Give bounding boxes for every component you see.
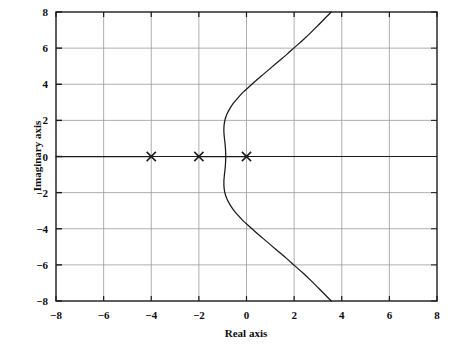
- y-tick-label: 8: [20, 6, 48, 18]
- y-tick-label: −6: [20, 259, 48, 271]
- x-tick-label: −8: [50, 309, 62, 321]
- x-axis-label: Real axis: [225, 327, 267, 339]
- x-tick-label: 4: [339, 309, 345, 321]
- x-tick-label: −2: [193, 309, 205, 321]
- root-locus-plot: [0, 0, 453, 347]
- y-tick-label: 4: [20, 78, 48, 90]
- x-tick-label: 6: [387, 309, 393, 321]
- y-tick-label: −4: [20, 223, 48, 235]
- root-locus-figure: −8−6−4−202468 86420−2−4−6−8 Real axis Im…: [0, 0, 453, 347]
- y-tick-label: −8: [20, 295, 48, 307]
- x-tick-label: −6: [98, 309, 110, 321]
- x-tick-label: −4: [145, 309, 157, 321]
- x-tick-label: 8: [434, 309, 440, 321]
- y-tick-label: 6: [20, 42, 48, 54]
- y-axis-label: Imaginary axis: [31, 121, 43, 192]
- x-tick-label: 0: [244, 309, 250, 321]
- x-tick-label: 2: [291, 309, 297, 321]
